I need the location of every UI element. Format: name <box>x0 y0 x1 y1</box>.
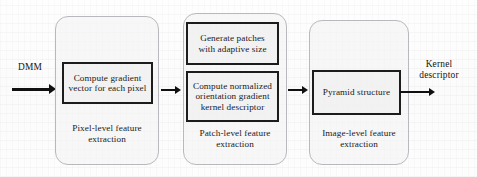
box-line-3: kernel descriptor <box>201 102 265 112</box>
box-compute-kernel-descriptor-text: Compute normalized orientation gradient … <box>193 81 272 112</box>
arrow-shaft <box>12 88 50 91</box>
arrow-head <box>175 86 181 94</box>
box-pyramid-structure-text: Pyramid structure <box>323 87 390 97</box>
caption-line-2: extraction <box>216 139 254 149</box>
box-compute-kernel-descriptor: Compute normalized orientation gradient … <box>186 71 279 122</box>
caption-pixel-level: Pixel-level feature extraction <box>55 123 159 144</box>
caption-line-1: Patch-level feature <box>199 128 270 138</box>
box-compute-gradient: Compute gradient vector for each pixel <box>62 62 153 104</box>
input-label-dmm: DMM <box>6 62 54 73</box>
output-label-kernel-descriptor: Kernel descriptor <box>406 59 472 81</box>
caption-image-level: Image-level feature extraction <box>307 128 411 149</box>
box-compute-gradient-text: Compute gradient vector for each pixel <box>69 73 147 94</box>
box-line-1: Compute gradient <box>74 73 142 83</box>
box-generate-patches-text: Generate patches with adaptive size <box>198 33 266 54</box>
arrow-shaft <box>288 89 303 91</box>
box-line-2: with adaptive size <box>198 44 266 54</box>
box-pyramid-structure: Pyramid structure <box>312 70 401 115</box>
output-label-line-2: descriptor <box>419 70 459 80</box>
caption-line-1: Pixel-level feature <box>72 123 142 133</box>
caption-line-2: extraction <box>88 134 126 144</box>
box-line-1: Pyramid structure <box>323 87 390 97</box>
box-line-1: Compute normalized <box>193 81 272 91</box>
caption-patch-level: Patch-level feature extraction <box>183 128 287 149</box>
box-line-2: vector for each pixel <box>69 83 147 93</box>
output-label-line-1: Kernel <box>426 59 453 69</box>
box-generate-patches: Generate patches with adaptive size <box>186 22 279 65</box>
caption-line-1: Image-level feature <box>322 128 396 138</box>
arrow-head <box>429 88 435 96</box>
arrow-shaft <box>400 91 430 93</box>
caption-line-2: extraction <box>340 139 378 149</box>
box-line-2: orientation gradient <box>195 91 269 101</box>
figure-canvas: DMM Compute gradient vector for each pix… <box>0 0 477 177</box>
arrow-head <box>302 86 308 94</box>
box-line-1: Generate patches <box>200 33 265 43</box>
arrow-shaft <box>161 89 176 91</box>
